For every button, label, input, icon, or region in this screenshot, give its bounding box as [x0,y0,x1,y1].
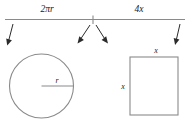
right-down-arrow [174,24,180,45]
circle-shape: r [10,54,74,118]
square-outline [130,57,178,115]
left-segment-label: 2πr [40,4,54,14]
right-segment-label: 4x [135,4,145,14]
center-right-arrow [96,25,108,44]
center-left-arrow [78,25,91,44]
left-down-arrow [6,24,13,46]
square-shape: x x [120,46,178,115]
math-diagram: 2πr 4x r x [0,0,190,127]
square-left-side-label: x [120,82,125,91]
radius-label: r [55,76,59,85]
square-top-side-label: x [153,46,158,55]
diagram-canvas: 2πr 4x r x [0,0,190,127]
